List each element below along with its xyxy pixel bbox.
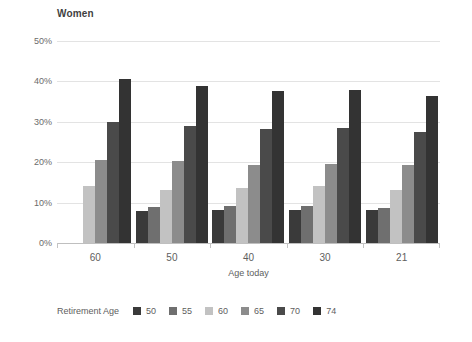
bar[interactable] <box>212 210 224 243</box>
bar[interactable] <box>136 211 148 243</box>
y-axis-tick-label: 0% <box>39 239 52 248</box>
bar[interactable] <box>426 96 438 243</box>
bar[interactable] <box>83 186 95 243</box>
legend-item[interactable]: 60 <box>205 306 228 316</box>
x-axis-tick <box>134 243 211 249</box>
bar[interactable] <box>148 207 160 243</box>
legend-item[interactable]: 50 <box>133 306 156 316</box>
bar[interactable] <box>196 86 208 243</box>
legend-swatch-icon <box>277 307 285 315</box>
legend-item-label: 70 <box>290 306 300 316</box>
chart-container: Women 0%10%20%30%40%50% 6050403021 Age t… <box>0 0 472 342</box>
bar[interactable] <box>272 91 284 243</box>
legend-item-label: 50 <box>146 306 156 316</box>
bar[interactable] <box>260 129 272 243</box>
legend: Retirement Age 505560657074 <box>57 306 349 316</box>
bar[interactable] <box>390 190 402 243</box>
plot-area <box>57 41 440 243</box>
x-axis-tick-label: 40 <box>210 252 287 263</box>
legend-item-label: 65 <box>254 306 264 316</box>
bar[interactable] <box>402 165 414 243</box>
bar[interactable] <box>224 206 236 243</box>
x-axis-tick <box>57 243 134 249</box>
bar-group <box>287 41 364 243</box>
y-axis-tick-label: 30% <box>34 117 52 126</box>
legend-swatch-icon <box>241 307 249 315</box>
bar[interactable] <box>248 165 260 243</box>
legend-swatch-icon <box>313 307 321 315</box>
bar[interactable] <box>95 160 107 243</box>
legend-swatch-icon <box>133 307 141 315</box>
bar[interactable] <box>160 190 172 243</box>
bar[interactable] <box>325 164 337 243</box>
bar-group <box>57 41 134 243</box>
bar-group <box>210 41 287 243</box>
x-axis-tick-label: 21 <box>363 252 440 263</box>
bar[interactable] <box>349 90 361 243</box>
legend-item-label: 74 <box>326 306 336 316</box>
x-axis-tick <box>363 243 440 249</box>
legend-item[interactable]: 55 <box>169 306 192 316</box>
legend-swatch-icon <box>205 307 213 315</box>
legend-item-label: 60 <box>218 306 228 316</box>
bar[interactable] <box>172 161 184 243</box>
legend-items: 505560657074 <box>133 306 349 316</box>
x-axis-tick-label: 60 <box>57 252 134 263</box>
bar[interactable] <box>184 126 196 243</box>
bar[interactable] <box>289 210 301 243</box>
x-axis-tick <box>210 243 287 249</box>
bar[interactable] <box>414 132 426 243</box>
chart-title: Women <box>57 8 94 19</box>
bar[interactable] <box>366 210 378 243</box>
y-axis-tick-label: 50% <box>34 37 52 46</box>
bar[interactable] <box>107 122 119 243</box>
bar[interactable] <box>378 208 390 243</box>
y-axis-tick-labels: 0%10%20%30%40%50% <box>22 41 52 243</box>
bar[interactable] <box>236 188 248 243</box>
y-axis-tick-label: 10% <box>34 198 52 207</box>
legend-item-label: 55 <box>182 306 192 316</box>
x-axis-tick <box>287 243 364 249</box>
bar-groups <box>57 41 440 243</box>
bar[interactable] <box>119 79 131 243</box>
x-axis-title: Age today <box>57 268 440 278</box>
legend-item[interactable]: 70 <box>277 306 300 316</box>
bar-group <box>134 41 211 243</box>
y-axis-tick-label: 20% <box>34 158 52 167</box>
x-axis-tick-label: 50 <box>134 252 211 263</box>
legend-title: Retirement Age <box>57 306 119 316</box>
bar[interactable] <box>301 206 313 243</box>
legend-item[interactable]: 74 <box>313 306 336 316</box>
bar[interactable] <box>337 128 349 243</box>
legend-item[interactable]: 65 <box>241 306 264 316</box>
x-axis-tick-label: 30 <box>287 252 364 263</box>
x-axis-ticks <box>57 243 440 249</box>
y-axis-tick-label: 40% <box>34 77 52 86</box>
bar-group <box>363 41 440 243</box>
legend-swatch-icon <box>169 307 177 315</box>
bar[interactable] <box>313 186 325 243</box>
x-axis-tick-labels: 6050403021 <box>57 252 440 263</box>
